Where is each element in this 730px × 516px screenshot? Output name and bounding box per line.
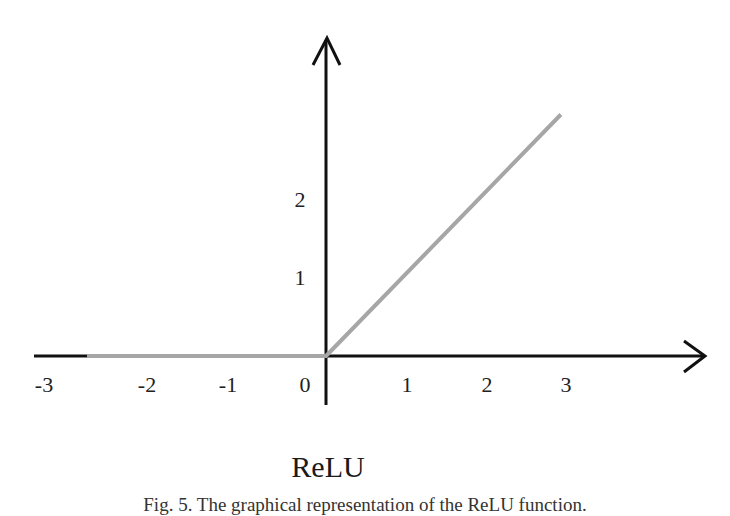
y-tick-label: 1	[295, 265, 306, 290]
x-tick-labels: -3 -2 -1 0 1 2 3	[35, 372, 572, 397]
y-tick-label: 2	[295, 187, 306, 212]
x-tick-label: 1	[402, 372, 413, 397]
relu-line	[87, 115, 561, 357]
x-tick-label: -2	[138, 372, 156, 397]
y-tick-labels: 1 2	[295, 187, 306, 290]
x-tick-label: -3	[35, 372, 53, 397]
y-axis	[313, 38, 340, 405]
chart-title: ReLU	[291, 450, 365, 483]
x-tick-label: -1	[219, 372, 237, 397]
x-tick-label: 2	[482, 372, 493, 397]
x-tick-label: 3	[561, 372, 572, 397]
x-tick-label: 0	[300, 372, 311, 397]
figure-caption: Fig. 5. The graphical representation of …	[0, 494, 730, 516]
